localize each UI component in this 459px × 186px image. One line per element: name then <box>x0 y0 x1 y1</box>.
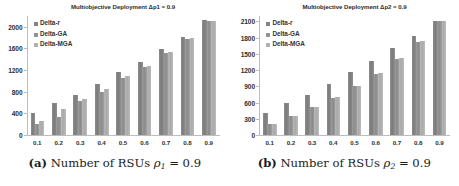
y-axis-tick-label: 1500 <box>241 50 255 57</box>
caption-a-subscript: 1 <box>161 162 166 171</box>
caption-b-text: Number of RSUs <box>280 156 379 170</box>
bar-delta-mga <box>125 76 130 135</box>
subfigure-a: Multiobjective Deployment Δp1 = 0.904008… <box>0 0 230 186</box>
y-axis-tick-label: 0 <box>251 132 255 139</box>
caption-a-value: = 0.9 <box>169 156 201 170</box>
x-axis-tick-label: 0.6 <box>134 139 155 146</box>
caption-a-tag: (a) <box>28 156 46 170</box>
x-axis-tick-label: 0.7 <box>155 139 176 146</box>
y-axis-tick-label: 900 <box>244 83 255 90</box>
chart-title: Multiobjective Deployment Δp1 = 0.9 <box>23 3 224 10</box>
x-axis-tick-label: 0.9 <box>429 139 450 146</box>
legend-label: Delta-MGA <box>273 40 305 47</box>
caption-a-symbol: ρ <box>154 156 161 170</box>
x-axis-tick-label: 0.9 <box>198 139 219 146</box>
bar-delta-mga <box>272 124 277 135</box>
legend-label: Delta-MGA <box>40 40 72 47</box>
y-axis-tick-label: 0 <box>19 132 23 139</box>
bar-delta-mga <box>104 89 109 135</box>
x-axis-tick-label: 0.3 <box>301 139 322 146</box>
bar-delta-mga <box>335 97 340 135</box>
y-axis-tick-label: 800 <box>12 88 23 95</box>
legend-swatch-icon <box>34 33 38 37</box>
y-axis-tick-label: 2100 <box>241 18 255 25</box>
bar-delta-mga <box>314 107 319 135</box>
x-axis-tick-label: 0.7 <box>386 139 407 146</box>
legend-swatch-icon <box>266 33 270 37</box>
caption-a-text: Number of RSUs <box>51 156 150 170</box>
y-axis-tick-label: 1200 <box>241 67 255 74</box>
bar-chart-delta-p2: Multiobjective Deployment Δp2 = 0.903006… <box>230 0 459 156</box>
bar-delta-mga <box>293 116 298 135</box>
y-axis-line <box>259 16 260 135</box>
legend-label: Delta-GA <box>273 30 300 37</box>
x-axis-line <box>256 135 450 136</box>
x-axis-tick-label: 0.5 <box>344 139 365 146</box>
caption-b-tag: (b) <box>258 156 277 170</box>
bar-delta-mga <box>211 21 216 135</box>
legend-label: Delta-r <box>40 19 60 26</box>
bar-delta-mga <box>442 21 447 135</box>
legend-swatch-icon <box>266 43 270 47</box>
x-axis-tick-label: 0.4 <box>91 139 112 146</box>
y-axis-tick-label: 300 <box>244 115 255 122</box>
x-axis-line <box>24 135 220 136</box>
caption-b-value: = 0.9 <box>399 156 431 170</box>
bar-delta-mga <box>190 38 195 135</box>
legend-label: Delta-r <box>273 19 293 26</box>
y-axis-line <box>27 16 28 135</box>
chart-title: Multiobjective Deployment Δp2 = 0.9 <box>255 3 454 10</box>
y-axis-tick-label: 1800 <box>241 34 255 41</box>
subfigure-a-caption: (a) Number of RSUs ρ1 = 0.9 <box>0 156 230 171</box>
legend-swatch-icon <box>34 43 38 47</box>
bar-delta-mga <box>39 121 44 135</box>
legend-label: Delta-GA <box>40 30 67 37</box>
bar-delta-mga <box>168 52 173 135</box>
y-axis-tick-label: 1200 <box>8 67 22 74</box>
x-axis-tick-label: 0.8 <box>408 139 429 146</box>
bar-delta-mga <box>420 41 425 135</box>
y-axis-tick-label: 600 <box>244 99 255 106</box>
x-axis-tick-label: 0.6 <box>365 139 386 146</box>
x-axis-tick-label: 0.2 <box>280 139 301 146</box>
bar-delta-mga <box>378 73 383 135</box>
x-axis-tick-label: 0.1 <box>27 139 48 146</box>
y-axis-tick-label: 1600 <box>8 45 22 52</box>
bar-chart-delta-p1: Multiobjective Deployment Δp1 = 0.904008… <box>0 0 230 156</box>
y-axis-tick-label: 400 <box>12 110 23 117</box>
bar-delta-mga <box>82 99 87 135</box>
bar-delta-mga <box>147 66 152 136</box>
legend-swatch-icon <box>266 22 270 26</box>
legend-swatch-icon <box>34 22 38 26</box>
x-axis-tick-label: 0.4 <box>323 139 344 146</box>
caption-b-subscript: 2 <box>390 162 395 171</box>
bar-delta-mga <box>357 86 362 135</box>
figure-two-subplots: Multiobjective Deployment Δp1 = 0.904008… <box>0 0 459 186</box>
x-axis-tick-label: 0.8 <box>177 139 198 146</box>
x-axis-tick-label: 0.3 <box>69 139 90 146</box>
x-axis-tick-label: 0.2 <box>48 139 69 146</box>
x-axis-tick-label: 0.5 <box>112 139 133 146</box>
bar-delta-mga <box>61 109 66 135</box>
y-axis-tick-label: 2000 <box>8 23 22 30</box>
subfigure-b-caption: (b) Number of RSUs ρ2 = 0.9 <box>230 156 459 171</box>
x-axis-tick-label: 0.1 <box>259 139 280 146</box>
bar-delta-mga <box>399 58 404 135</box>
subfigure-b: Multiobjective Deployment Δp2 = 0.903006… <box>230 0 459 186</box>
